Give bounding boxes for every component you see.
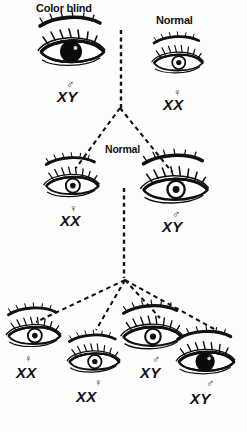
- individual-f1b-normal-son[interactable]: [140, 149, 208, 203]
- individual-f1a-normal-carrier-daughter[interactable]: [44, 152, 100, 196]
- eye-icon-open-iris: [140, 149, 208, 203]
- individual-p2-normal-mother[interactable]: [152, 32, 204, 73]
- eye-icon-filled-iris: [176, 326, 235, 374]
- individual-f2b-normal-daughter[interactable]: [67, 330, 120, 372]
- sex-symbol-f2a: ♀: [24, 352, 32, 364]
- eye-icon-open-iris: [44, 152, 100, 196]
- genotype-f2a: XX: [16, 364, 37, 381]
- genotype-f1a: XX: [60, 212, 81, 229]
- caption-f1-normal: Normal: [103, 143, 142, 155]
- genotype-f2d: XY: [190, 390, 211, 407]
- caption-p2: Normal: [156, 14, 193, 26]
- genotype-f2b: XX: [76, 388, 97, 405]
- genotype-p2: XX: [163, 96, 184, 113]
- f1-to-f2-3: [125, 280, 160, 318]
- individual-f2d-color-blind-son[interactable]: [176, 326, 235, 374]
- sex-symbol-f2b: ♀: [94, 376, 102, 388]
- eye-icon-open-iris: [6, 303, 61, 347]
- individual-f2a-normal-daughter[interactable]: [6, 303, 61, 347]
- caption-p1: Color blind: [36, 2, 92, 14]
- individual-f2c-normal-son[interactable]: [121, 300, 183, 349]
- sex-symbol-f2d: ♂: [206, 377, 214, 389]
- genotype-f1b: XY: [162, 218, 183, 235]
- eye-icon-open-iris: [121, 300, 183, 349]
- eye-icon-open-iris: [152, 32, 204, 73]
- pedigree-diagram-canvas: [0, 0, 247, 432]
- individual-p1-color-blind-father[interactable]: [38, 11, 105, 65]
- eye-icon-filled-iris: [38, 11, 105, 65]
- genotype-p1: XY: [57, 88, 78, 105]
- eye-icon-open-iris: [67, 330, 120, 372]
- genotype-f2c: XY: [140, 364, 161, 381]
